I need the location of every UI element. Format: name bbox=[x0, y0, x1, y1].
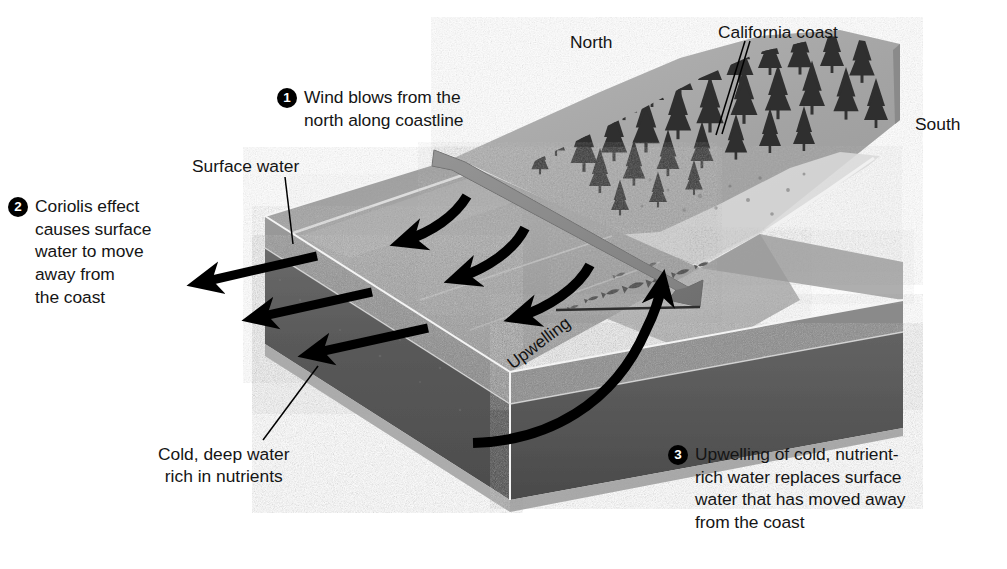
step-3-text: Upwelling of cold, nutrient- rich water … bbox=[695, 443, 905, 534]
label-north: North bbox=[570, 31, 613, 53]
leader-cold-deep bbox=[263, 366, 318, 440]
step-3-bullet: 3 bbox=[668, 445, 688, 465]
step-2-bullet: 2 bbox=[8, 197, 28, 217]
step-3-callout: 3 Upwelling of cold, nutrient- rich wate… bbox=[668, 443, 1007, 534]
step-1-text: Wind blows from the north along coastlin… bbox=[304, 86, 463, 131]
label-south: South bbox=[915, 113, 960, 135]
step-1-callout: 1 Wind blows from the north along coastl… bbox=[277, 86, 537, 131]
label-surface-water: Surface water bbox=[192, 155, 299, 177]
label-california-coast: California coast bbox=[718, 21, 838, 43]
step-2-text: Coriolis effect causes surface water to … bbox=[35, 195, 151, 308]
step-1-bullet: 1 bbox=[277, 88, 297, 108]
upwelling-diagram: 1 Wind blows from the north along coastl… bbox=[0, 0, 1007, 569]
step-2-callout: 2 Coriolis effect causes surface water t… bbox=[8, 195, 183, 308]
label-cold-deep-water: Cold, deep water rich in nutrients bbox=[158, 443, 289, 488]
